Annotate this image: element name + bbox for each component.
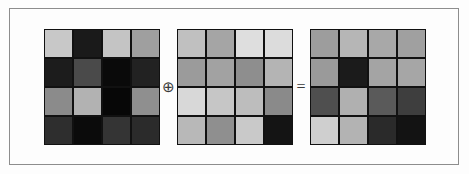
- pixel-cell: [103, 117, 130, 144]
- pixel-grid-result: [310, 29, 426, 145]
- pixel-cell: [132, 59, 159, 86]
- pixel-grid-operand-a: [44, 29, 160, 145]
- pixel-cell: [178, 30, 205, 57]
- pixel-cell: [45, 30, 72, 57]
- figure-container: ⊕ =: [0, 0, 469, 174]
- pixel-cell: [311, 117, 338, 144]
- pixel-grid-operand-b: [177, 29, 293, 145]
- equation-row: ⊕ =: [0, 0, 469, 174]
- pixel-cell: [340, 30, 367, 57]
- pixel-cell: [265, 30, 292, 57]
- pixel-cell: [178, 59, 205, 86]
- pixel-cell: [311, 88, 338, 115]
- pixel-cell: [369, 59, 396, 86]
- pixel-cell: [369, 30, 396, 57]
- pixel-cell: [74, 30, 101, 57]
- pixel-cell: [207, 88, 234, 115]
- pixel-cell: [340, 117, 367, 144]
- pixel-cell: [45, 117, 72, 144]
- pixel-cell: [265, 88, 292, 115]
- pixel-cell: [74, 88, 101, 115]
- pixel-cell: [369, 117, 396, 144]
- pixel-cell: [265, 59, 292, 86]
- pixel-cell: [207, 117, 234, 144]
- pixel-cell: [45, 59, 72, 86]
- pixel-cell: [132, 30, 159, 57]
- pixel-cell: [311, 30, 338, 57]
- pixel-cell: [74, 59, 101, 86]
- pixel-cell: [132, 88, 159, 115]
- pixel-cell: [236, 59, 263, 86]
- pixel-cell: [369, 88, 396, 115]
- pixel-cell: [236, 88, 263, 115]
- pixel-cell: [207, 59, 234, 86]
- pixel-cell: [207, 30, 234, 57]
- pixel-cell: [236, 117, 263, 144]
- pixel-cell: [103, 88, 130, 115]
- pixel-cell: [398, 59, 425, 86]
- pixel-cell: [398, 30, 425, 57]
- pixel-cell: [236, 30, 263, 57]
- pixel-cell: [340, 88, 367, 115]
- circled-plus-icon: ⊕: [160, 29, 177, 145]
- pixel-cell: [398, 117, 425, 144]
- pixel-cell: [103, 59, 130, 86]
- pixel-cell: [340, 59, 367, 86]
- pixel-cell: [265, 117, 292, 144]
- pixel-cell: [178, 117, 205, 144]
- equals-icon: =: [293, 29, 310, 145]
- pixel-cell: [132, 117, 159, 144]
- pixel-cell: [398, 88, 425, 115]
- pixel-cell: [74, 117, 101, 144]
- pixel-cell: [178, 88, 205, 115]
- pixel-cell: [45, 88, 72, 115]
- pixel-cell: [311, 59, 338, 86]
- pixel-cell: [103, 30, 130, 57]
